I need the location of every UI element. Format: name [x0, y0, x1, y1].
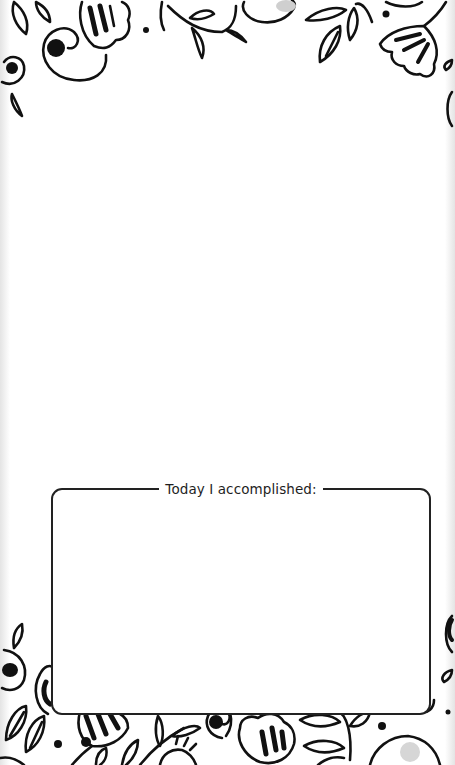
accomplished-box[interactable]: Today I accomplished:: [51, 488, 431, 715]
journal-page: Today I accomplished:: [0, 0, 455, 765]
accomplished-label-wrapper: Today I accomplished:: [53, 479, 429, 499]
top-floral-border-icon: [0, 0, 455, 130]
accomplished-label: Today I accomplished:: [159, 481, 322, 497]
accomplished-content[interactable]: [65, 504, 417, 701]
